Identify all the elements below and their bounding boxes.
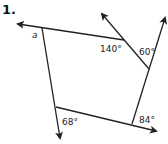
- angle-60-label: 60°: [139, 47, 155, 57]
- diagonal-ray: [102, 14, 149, 69]
- angle-140-label: 140°: [100, 44, 122, 54]
- angle-84-label: 84°: [139, 115, 155, 125]
- right-ray: [132, 18, 165, 124]
- polygon-diagram: a 140° 60° 68° 84°: [0, 0, 168, 144]
- angle-a-label: a: [32, 30, 38, 40]
- angle-68-label: 68°: [62, 117, 78, 127]
- left-ray: [42, 28, 60, 138]
